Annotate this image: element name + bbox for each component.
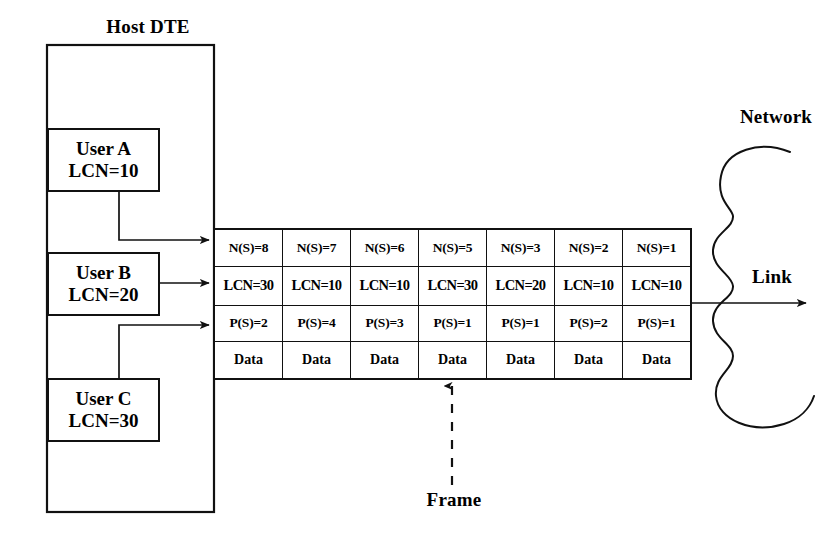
- frame-row-ps: P(S)=2 P(S)=4 P(S)=3 P(S)=1 P(S)=1 P(S)=…: [215, 305, 691, 342]
- cell-ps-3: P(S)=1: [419, 305, 487, 342]
- cell-ps-1: P(S)=4: [283, 305, 351, 342]
- user-c-name: User C: [75, 388, 131, 410]
- cell-lcn-2: LCN=10: [351, 266, 419, 305]
- cell-lcn-1: LCN=10: [283, 266, 351, 305]
- cell-lcn-6: LCN=10: [623, 266, 691, 305]
- cell-data-5: Data: [555, 342, 623, 379]
- cell-data-1: Data: [283, 342, 351, 379]
- user-c-lcn: LCN=30: [69, 410, 139, 432]
- diagram-canvas: Host DTE Network Link Frame User A LCN=1…: [0, 0, 839, 541]
- user-c-box[interactable]: User C LCN=30: [47, 378, 160, 442]
- link-label: Link: [737, 267, 807, 287]
- cell-ns-1: N(S)=7: [283, 230, 351, 267]
- user-b-lcn: LCN=20: [69, 284, 139, 306]
- cell-data-2: Data: [351, 342, 419, 379]
- cell-lcn-0: LCN=30: [215, 266, 283, 305]
- network-label: Network: [716, 107, 836, 127]
- cell-ps-0: P(S)=2: [215, 305, 283, 342]
- cell-lcn-3: LCN=30: [419, 266, 487, 305]
- network-cloud: [713, 147, 814, 427]
- user-b-box[interactable]: User B LCN=20: [47, 252, 160, 316]
- cell-data-6: Data: [623, 342, 691, 379]
- cell-ns-2: N(S)=6: [351, 230, 419, 267]
- frame-row-ns: N(S)=8 N(S)=7 N(S)=6 N(S)=5 N(S)=3 N(S)=…: [215, 230, 691, 267]
- user-b-name: User B: [76, 262, 131, 284]
- frame-row-data: Data Data Data Data Data Data Data: [215, 342, 691, 379]
- cell-ns-6: N(S)=1: [623, 230, 691, 267]
- cell-ns-4: N(S)=3: [487, 230, 555, 267]
- cell-lcn-4: LCN=20: [487, 266, 555, 305]
- host-dte-label: Host DTE: [78, 17, 218, 37]
- cell-lcn-5: LCN=10: [555, 266, 623, 305]
- cell-ps-5: P(S)=2: [555, 305, 623, 342]
- cell-ps-2: P(S)=3: [351, 305, 419, 342]
- user-a-name: User A: [76, 138, 131, 160]
- cell-ns-0: N(S)=8: [215, 230, 283, 267]
- frame-label: Frame: [404, 490, 504, 510]
- cell-ps-4: P(S)=1: [487, 305, 555, 342]
- user-a-lcn: LCN=10: [69, 160, 139, 182]
- cell-data-3: Data: [419, 342, 487, 379]
- connector-user-c: [119, 325, 209, 378]
- cell-data-0: Data: [215, 342, 283, 379]
- frame-table-grid: N(S)=8 N(S)=7 N(S)=6 N(S)=5 N(S)=3 N(S)=…: [214, 229, 691, 379]
- cell-ns-3: N(S)=5: [419, 230, 487, 267]
- user-a-box[interactable]: User A LCN=10: [47, 128, 160, 192]
- frame-row-lcn: LCN=30 LCN=10 LCN=10 LCN=30 LCN=20 LCN=1…: [215, 266, 691, 305]
- cell-ps-6: P(S)=1: [623, 305, 691, 342]
- frame-table: N(S)=8 N(S)=7 N(S)=6 N(S)=5 N(S)=3 N(S)=…: [213, 228, 692, 380]
- connector-user-a: [119, 192, 209, 240]
- cell-ns-5: N(S)=2: [555, 230, 623, 267]
- cell-data-4: Data: [487, 342, 555, 379]
